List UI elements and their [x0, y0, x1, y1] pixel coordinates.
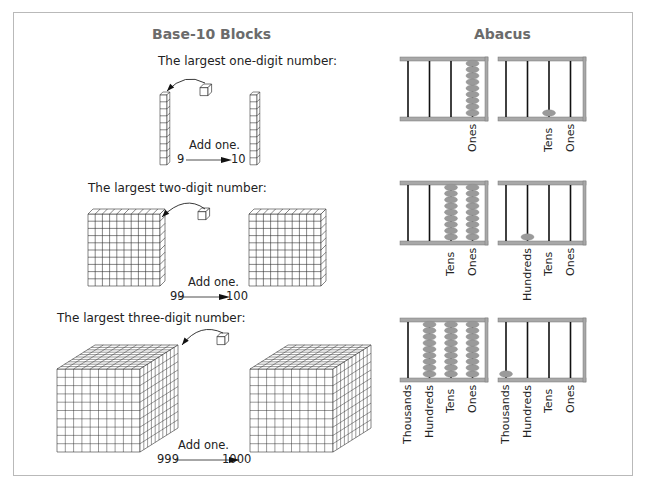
- abacus-label-ones: Ones: [564, 124, 577, 152]
- abacus-label-tens: Tens: [444, 251, 457, 275]
- illustration-layer: [0, 0, 646, 489]
- abacus-label-hundreds: Hundreds: [423, 385, 436, 438]
- abacus-label-thousands: Thousands: [401, 384, 414, 444]
- abacus-label-ones: Ones: [466, 385, 479, 413]
- abacus-label-tens: Tens: [542, 127, 555, 151]
- abacus-label-hundreds: Hundreds: [521, 385, 534, 438]
- abacus-label-ones: Ones: [564, 248, 577, 276]
- abacus-label-tens: Tens: [542, 388, 555, 412]
- abacus-label-ones: Ones: [466, 124, 479, 152]
- abacus-label-thousands: Thousands: [499, 384, 512, 444]
- abacus-label-ones: Ones: [564, 385, 577, 413]
- abacus-label-hundreds: Hundreds: [521, 248, 534, 301]
- abacus-label-tens: Tens: [444, 388, 457, 412]
- abacus-label-tens: Tens: [542, 251, 555, 275]
- abacus-label-ones: Ones: [466, 248, 479, 276]
